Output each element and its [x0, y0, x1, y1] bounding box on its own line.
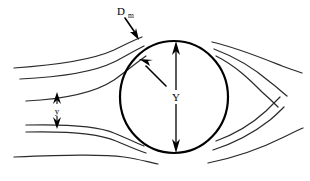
label-Dm-main: D	[117, 5, 125, 17]
diagram-background	[0, 0, 310, 181]
dimension-Y-label: Y	[172, 91, 180, 103]
figure-root: Y y D m	[0, 0, 310, 181]
dimension-y-label: y	[55, 106, 60, 116]
label-Dm-subscript: m	[128, 11, 134, 20]
flow-diagram-svg: Y y D m	[0, 0, 310, 181]
